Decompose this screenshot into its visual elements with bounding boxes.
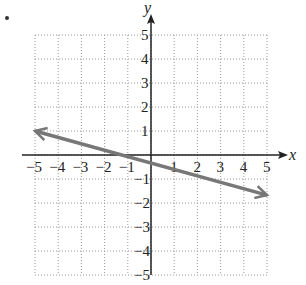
y-tick-label: 4 xyxy=(141,51,149,67)
x-tick-label: −2 xyxy=(96,159,112,175)
y-tick-label: −2 xyxy=(134,195,150,211)
y-tick-label: −4 xyxy=(134,243,150,259)
y-axis-label: y xyxy=(142,0,152,17)
x-tick-label: 2 xyxy=(193,159,201,175)
y-tick-label: 5 xyxy=(141,27,149,43)
y-tick-label: 1 xyxy=(141,123,149,139)
x-tick-label: −3 xyxy=(72,159,88,175)
y-tick-label: −5 xyxy=(134,267,150,283)
x-tick-label: −4 xyxy=(49,159,65,175)
x-tick-label: −5 xyxy=(26,159,42,175)
x-axis-label: x xyxy=(288,146,296,163)
x-tick-label: −1 xyxy=(119,159,135,175)
coordinate-plane: xy−5−4−3−2−11234554321−1−2−3−4−5 xyxy=(0,0,306,285)
y-tick-label: 2 xyxy=(141,99,149,115)
x-tick-label: 5 xyxy=(263,159,271,175)
x-tick-label: 3 xyxy=(217,159,225,175)
x-tick-label: 4 xyxy=(240,159,248,175)
y-tick-label: −3 xyxy=(134,219,150,235)
y-tick-label: 3 xyxy=(141,75,149,91)
y-tick-label: −1 xyxy=(134,171,150,187)
